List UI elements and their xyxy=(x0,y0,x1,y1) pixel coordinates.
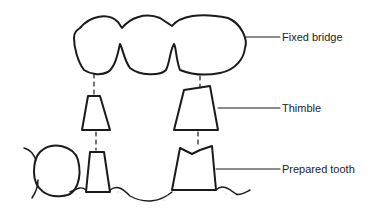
adjacent-tooth xyxy=(34,146,79,197)
prepared-tooth-right xyxy=(172,146,216,190)
alignment-lines xyxy=(94,74,200,150)
gum-line xyxy=(70,187,250,201)
fixed-bridge-outline xyxy=(74,15,246,74)
leader-lines xyxy=(216,37,280,169)
thimble-left xyxy=(82,96,110,130)
dental-bridge-diagram: Fixed bridge Thimble Prepared tooth xyxy=(0,0,377,219)
label-thimble: Thimble xyxy=(282,102,321,114)
thimble-right xyxy=(174,86,218,130)
prepared-tooth-left xyxy=(86,152,110,192)
label-fixed-bridge: Fixed bridge xyxy=(282,31,343,43)
label-prepared-tooth: Prepared tooth xyxy=(282,163,355,175)
